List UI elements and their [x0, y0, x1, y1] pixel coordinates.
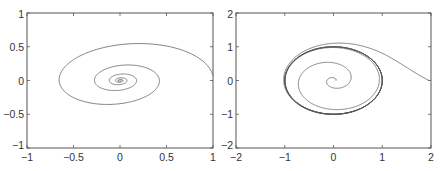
left-plot-x-ticks: −1−0.500.51 — [21, 13, 216, 163]
trajectory-curve — [285, 47, 382, 114]
right-plot-frame — [236, 13, 431, 148]
x-tick-label: 1 — [210, 151, 216, 163]
x-tick-label: 0.5 — [159, 151, 174, 163]
y-tick-label: 1 — [18, 8, 24, 20]
y-tick-label: −1 — [12, 139, 24, 151]
left-plot-y-ticks: −1−0.500.51 — [3, 8, 213, 151]
trajectory-curve — [59, 44, 213, 105]
x-tick-label: −0.5 — [63, 151, 84, 163]
right-plot-curves — [284, 43, 429, 114]
x-tick-label: −1 — [21, 151, 33, 163]
right-plot-panel: −2−1012 −2−1012 — [221, 8, 434, 163]
x-tick-label: 0 — [117, 151, 123, 163]
x-tick-label: −2 — [230, 151, 242, 163]
right-plot-x-ticks: −2−1012 — [230, 13, 434, 163]
x-tick-label: 1 — [379, 151, 385, 163]
y-tick-label: −1 — [221, 108, 233, 120]
y-tick-label: −2 — [221, 139, 233, 151]
left-plot-panel: −1−0.500.51 −1−0.500.51 — [3, 8, 216, 163]
y-tick-label: −0.5 — [3, 108, 24, 120]
right-plot-y-ticks: −2−1012 — [221, 8, 431, 151]
y-tick-label: 0.5 — [9, 41, 24, 53]
y-tick-label: 0 — [227, 75, 233, 87]
left-plot-frame — [27, 13, 213, 148]
x-tick-label: 0 — [331, 151, 337, 163]
y-tick-label: 1 — [227, 41, 233, 53]
x-tick-label: −1 — [279, 151, 291, 163]
x-tick-label: 2 — [428, 151, 434, 163]
y-tick-label: 0 — [18, 75, 24, 87]
left-plot-curves — [59, 44, 213, 105]
y-tick-label: 2 — [227, 8, 233, 20]
figure: −1−0.500.51 −1−0.500.51 −2−1012 −2−1012 — [0, 0, 442, 171]
